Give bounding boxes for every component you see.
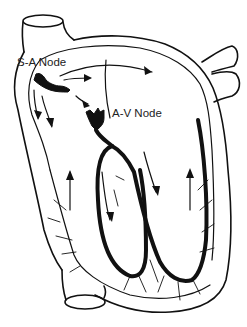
sa-node-label: S-A Node [17, 57, 66, 69]
heart-conduction-diagram: S-A Node A-V Node [0, 0, 247, 327]
sa-node-shape [34, 73, 70, 92]
superior-vena-cava [22, 15, 74, 52]
heart-illustration [0, 0, 247, 327]
atrial-septum [105, 60, 110, 118]
pulmonary-veins [202, 46, 239, 102]
av-node-shape [86, 108, 104, 130]
av-node-label: A-V Node [112, 108, 162, 120]
inferior-vena-cava [62, 270, 106, 309]
